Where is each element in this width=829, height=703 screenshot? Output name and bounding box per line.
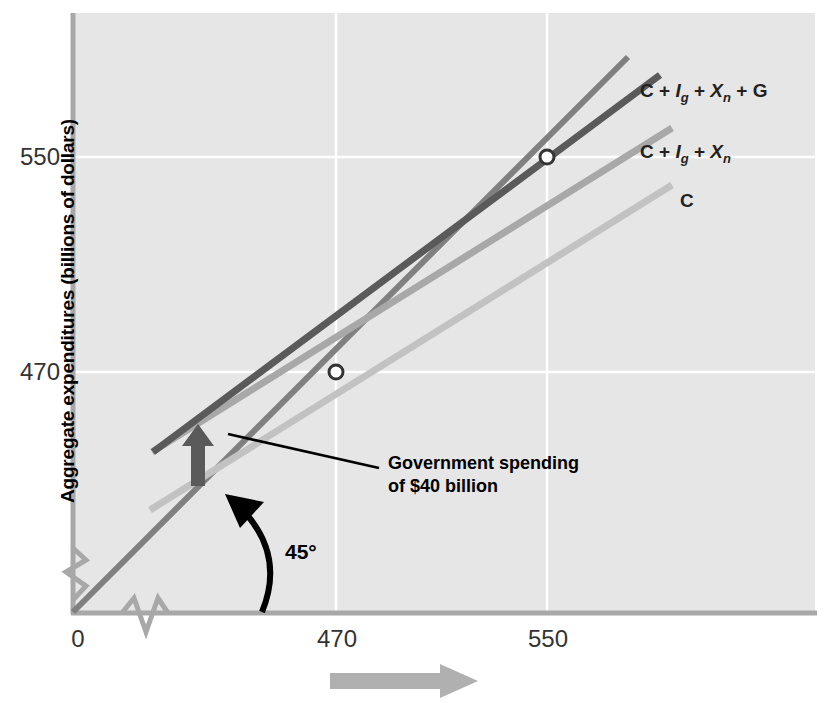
- x-tick-label-0: 0: [38, 625, 118, 653]
- label-plus-1: +: [659, 80, 670, 101]
- aggregate-expenditures-chart: [0, 0, 829, 703]
- curve-label-c-ig-xn: C + Ig + Xn: [640, 141, 731, 166]
- label-ig-sub: g: [681, 90, 689, 105]
- label-xn-sub: n: [723, 90, 731, 105]
- equilibrium-marker-470: [329, 365, 343, 379]
- x-tick-label-470: 470: [297, 625, 377, 653]
- label-c-2: C: [640, 141, 654, 162]
- x-tick-label-550: 550: [508, 625, 588, 653]
- y-tick-label-550: 550: [0, 143, 60, 171]
- equilibrium-marker-550: [540, 150, 554, 164]
- y-tick-label-470: 470: [0, 358, 60, 386]
- label-plus-1-2: +: [659, 141, 670, 162]
- angle-label: 45°: [285, 540, 317, 564]
- label-plus-2: +: [694, 80, 705, 101]
- label-plus-2-2: +: [694, 141, 705, 162]
- callout-line-1: Government spending: [388, 452, 579, 475]
- output-increase-arrow-icon: [330, 664, 478, 698]
- y-axis-title: Aggregate expenditures (billions of doll…: [57, 31, 79, 591]
- label-g: G: [753, 80, 768, 101]
- chart-figure: Aggregate expenditures (billions of doll…: [0, 0, 829, 703]
- label-c: C: [640, 80, 654, 101]
- callout-line-2: of $40 billion: [388, 475, 579, 498]
- label-xn: X: [710, 80, 723, 101]
- government-spending-callout: Government spending of $40 billion: [388, 452, 579, 497]
- label-plus-3: +: [736, 80, 747, 101]
- label-xn-sub-2: n: [723, 151, 731, 166]
- label-xn-2: X: [710, 141, 723, 162]
- curve-label-c: C: [680, 190, 694, 212]
- label-ig-sub-2: g: [681, 151, 689, 166]
- curve-label-c-ig-xn-g: C + Ig + Xn + G: [640, 80, 767, 105]
